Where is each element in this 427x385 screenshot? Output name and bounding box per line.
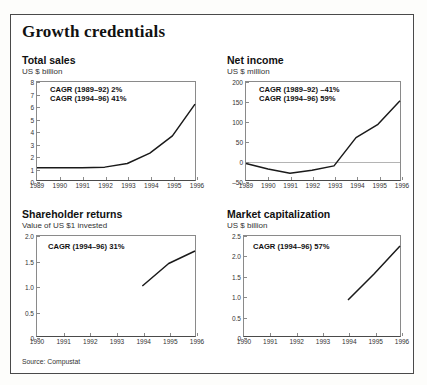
- chart-annotation: CAGR (1989–92) –41%CAGR (1994–96) 59%: [259, 85, 340, 104]
- y-axis-tick: [37, 82, 40, 83]
- y-axis-tick: [37, 236, 40, 237]
- x-axis-tick-label: 1991: [263, 338, 277, 345]
- y-axis-tick: [244, 256, 247, 257]
- x-axis-tick-label: 1994: [350, 182, 364, 189]
- x-axis-tick-label: 1991: [56, 338, 70, 345]
- y-axis-tick-label: 150: [232, 99, 243, 106]
- y-axis-tick: [37, 132, 40, 133]
- chart-annotation: CAGR (1989–92) 2%CAGR (1994–96) 41%: [50, 85, 126, 104]
- x-axis-tick: [376, 333, 377, 336]
- x-axis-tick: [268, 177, 269, 180]
- x-axis-tick: [402, 177, 403, 180]
- source-note: Source: Compustat: [22, 358, 80, 365]
- annotation-line: CAGR (1989–92) –41%: [259, 85, 340, 94]
- y-axis-tick-label: 2.0: [25, 233, 34, 240]
- y-axis-tick: [244, 236, 247, 237]
- x-axis-tick-label: 1992: [306, 182, 320, 189]
- y-axis-tick: [37, 157, 40, 158]
- x-axis-tick-label: 1990: [53, 182, 67, 189]
- plot-area: 0123456781989199019911992199319941995199…: [22, 81, 196, 181]
- panel-subtitle: Value of US $1 invested: [22, 221, 196, 231]
- x-axis-tick: [323, 333, 324, 336]
- x-axis-tick-label: 1996: [190, 182, 204, 189]
- y-axis-tick-label: 1.0: [25, 284, 34, 291]
- panel-market-capitalization: Market capitalization US $ billion 00.51…: [227, 208, 401, 337]
- x-axis-tick: [170, 333, 171, 336]
- y-axis-tick: [246, 82, 249, 83]
- x-axis-tick-label: 1990: [30, 338, 44, 345]
- x-axis-tick: [90, 333, 91, 336]
- x-axis-tick-label: 1995: [368, 338, 382, 345]
- y-axis-tick: [246, 162, 249, 163]
- y-axis-tick-label: 0.5: [25, 309, 34, 316]
- x-axis-tick: [197, 333, 198, 336]
- x-axis-tick: [357, 177, 358, 180]
- x-axis-tick-label: 1993: [316, 338, 330, 345]
- plot-area: –500501001502001989199019911992199319941…: [227, 81, 401, 181]
- x-axis-tick: [144, 333, 145, 336]
- y-axis-tick-label: 0: [239, 159, 243, 166]
- x-axis-tick-label: 1992: [289, 338, 303, 345]
- annotation-line: CAGR (1989–92) 2%: [50, 85, 126, 94]
- x-axis-tick-label: 1990: [261, 182, 275, 189]
- panel-shareholder-returns: Shareholder returns Value of US $1 inves…: [22, 208, 196, 337]
- x-axis-tick-label: 1995: [372, 182, 386, 189]
- chart-annotation: CAGR (1994–96) 31%: [48, 242, 124, 251]
- figure-page: Growth credentials Total sales US $ bill…: [0, 0, 427, 385]
- y-axis-tick: [37, 262, 40, 263]
- x-axis-tick: [197, 177, 198, 180]
- annotation-line: CAGR (1994–96) 59%: [259, 94, 340, 103]
- y-axis-tick-label: 7: [30, 91, 34, 98]
- x-axis-tick: [151, 177, 152, 180]
- y-axis-tick-label: 1: [30, 166, 34, 173]
- y-axis-tick-label: 100: [232, 119, 243, 126]
- y-axis-tick-label: 5: [30, 116, 34, 123]
- x-axis-tick-label: 1993: [110, 338, 124, 345]
- x-axis-tick-label: 1992: [83, 338, 97, 345]
- y-axis-tick-label: 1.5: [25, 258, 34, 265]
- x-axis-tick-label: 1994: [136, 338, 150, 345]
- y-axis-tick: [246, 102, 249, 103]
- y-axis-tick-label: 200: [232, 79, 243, 86]
- x-axis-tick: [297, 333, 298, 336]
- panel-heading: Total sales: [22, 54, 196, 66]
- x-axis-tick: [349, 333, 350, 336]
- x-axis-tick-label: 1995: [163, 338, 177, 345]
- panel-net-income: Net income US $ million –500501001502001…: [227, 54, 401, 181]
- annotation-line: CAGR (1994–96) 31%: [48, 242, 124, 251]
- y-axis-tick: [37, 313, 40, 314]
- y-axis-tick-label: 6: [30, 104, 34, 111]
- y-axis-tick-label: 1.0: [232, 294, 241, 301]
- x-axis-tick-label: 1995: [167, 182, 181, 189]
- x-axis-tick: [313, 177, 314, 180]
- y-axis-tick: [37, 287, 40, 288]
- x-axis-tick-label: 1991: [283, 182, 297, 189]
- x-axis-tick-label: 1994: [342, 338, 356, 345]
- plot-area: 00.51.01.52.0199019911992199319941995199…: [22, 235, 196, 337]
- page-title: Growth credentials: [22, 22, 165, 42]
- x-axis-tick-label: 1989: [239, 182, 253, 189]
- y-axis-tick: [246, 122, 249, 123]
- panel-heading: Shareholder returns: [22, 208, 196, 220]
- x-axis-tick: [64, 333, 65, 336]
- y-axis-tick-label: 2.5: [232, 233, 241, 240]
- x-axis-tick-label: 1990: [237, 338, 251, 345]
- y-axis-tick: [37, 107, 40, 108]
- panel-subtitle: US $ billion: [227, 221, 401, 231]
- x-axis-tick: [291, 177, 292, 180]
- annotation-line: CAGR (1994–96) 57%: [253, 242, 329, 251]
- y-axis-tick: [244, 297, 247, 298]
- y-axis-tick: [37, 120, 40, 121]
- y-axis-tick: [244, 277, 247, 278]
- x-axis-tick: [117, 333, 118, 336]
- x-axis-tick: [128, 177, 129, 180]
- panel-heading: Net income: [227, 54, 401, 66]
- x-axis-tick-label: 1989: [30, 182, 44, 189]
- panel-subtitle: US $ million: [227, 67, 401, 77]
- y-axis-tick: [37, 170, 40, 171]
- y-axis-tick-label: 4: [30, 129, 34, 136]
- x-axis-tick: [60, 177, 61, 180]
- y-axis-tick: [244, 318, 247, 319]
- panel-total-sales: Total sales US $ billion 012345678198919…: [22, 54, 196, 181]
- x-axis-tick-label: 1991: [75, 182, 89, 189]
